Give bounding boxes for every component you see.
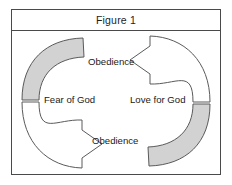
left-arrow-shaded-arc <box>22 38 84 100</box>
figure-frame: Figure 1 Obedience Fear of God Love for … <box>11 9 221 175</box>
label-fear-of-god: Fear of God <box>44 95 95 105</box>
left-arrow-head-body <box>22 102 102 168</box>
figure-caption-band: Figure 1 <box>12 10 220 31</box>
label-obedience-top: Obedience <box>88 57 134 67</box>
cycle-diagram: Obedience Fear of God Love for God Obedi… <box>12 31 220 174</box>
label-obedience-bottom: Obedience <box>92 136 138 146</box>
right-arrow-head-body <box>130 36 210 102</box>
label-love-for-god: Love for God <box>130 95 185 105</box>
right-arrow-shaded-arc <box>148 104 210 166</box>
figure-root: Figure 1 Obedience Fear of God Love for … <box>0 0 232 185</box>
figure-caption: Figure 1 <box>96 15 136 26</box>
